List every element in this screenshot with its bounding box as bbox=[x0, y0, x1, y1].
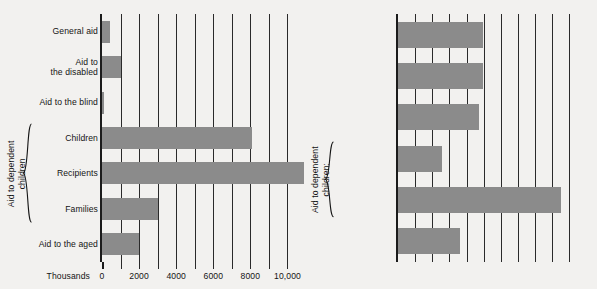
bar bbox=[102, 198, 158, 220]
category-label: General aid bbox=[8, 26, 98, 37]
x-tick-mark bbox=[102, 262, 104, 269]
x-tick-mark bbox=[213, 262, 214, 269]
bar bbox=[398, 22, 483, 48]
bar bbox=[102, 92, 104, 114]
category-label-line: Aid to bbox=[8, 57, 98, 68]
bar-row bbox=[398, 146, 578, 172]
x-axis-ticks-left: 0200040006000800010,000 bbox=[100, 262, 306, 286]
bar-series-right bbox=[398, 14, 578, 262]
group-bracket-label-line: Aid to dependent bbox=[310, 141, 321, 218]
bar-series-left bbox=[102, 14, 306, 262]
x-axis-title-left: Thousands bbox=[20, 271, 90, 281]
category-label-line: General aid bbox=[8, 26, 98, 37]
x-tick-mark bbox=[232, 262, 233, 269]
plot-area-right bbox=[396, 14, 578, 262]
category-label-line: Aid to the blind bbox=[8, 97, 98, 108]
bar-row bbox=[398, 187, 578, 213]
group-bracket-label-line: children: bbox=[321, 141, 332, 218]
x-tick-mark bbox=[195, 262, 196, 269]
plot-area-left bbox=[100, 14, 306, 262]
x-tick-label: 10,000 bbox=[274, 271, 301, 281]
bar-row bbox=[102, 56, 306, 78]
bar bbox=[398, 187, 561, 213]
x-tick-label: 2000 bbox=[129, 271, 149, 281]
x-tick-mark bbox=[121, 262, 122, 269]
bar bbox=[398, 228, 460, 254]
bar-row bbox=[102, 233, 306, 255]
bar bbox=[102, 21, 110, 43]
group-bracket-label: Aid to dependentchildren bbox=[6, 123, 27, 223]
x-tick-mark bbox=[250, 262, 251, 269]
chart-panel-dollars: GeneralassistanceAid tothe disabledAid t… bbox=[310, 0, 597, 289]
bar bbox=[398, 104, 479, 130]
group-bracket-label-line: Aid to dependent bbox=[6, 123, 17, 223]
x-tick-mark bbox=[287, 262, 288, 269]
x-tick-mark bbox=[158, 262, 159, 269]
group-bracket-label: Aid to dependentchildren: bbox=[310, 141, 331, 218]
x-tick-label: 8000 bbox=[241, 271, 261, 281]
category-label-line: the disabled bbox=[8, 67, 98, 78]
x-tick-mark bbox=[139, 262, 140, 269]
bar-row bbox=[102, 92, 306, 114]
bar bbox=[102, 162, 304, 184]
chart-page: General aidAid tothe disabledAid to the … bbox=[0, 0, 597, 289]
bar-row bbox=[398, 22, 578, 48]
bar-row bbox=[102, 162, 306, 184]
category-label: Aid tothe disabled bbox=[8, 57, 98, 78]
x-tick-label: 6000 bbox=[204, 271, 224, 281]
bar bbox=[398, 63, 483, 89]
group-bracket-label-line: children bbox=[17, 123, 28, 223]
bar bbox=[102, 56, 121, 78]
chart-panel-thousands: General aidAid tothe disabledAid to the … bbox=[0, 0, 310, 289]
bar bbox=[102, 233, 139, 255]
bar-row bbox=[102, 127, 306, 149]
x-axis-title-line: Thousands bbox=[20, 271, 90, 281]
bar bbox=[102, 127, 252, 149]
bar bbox=[398, 146, 442, 172]
x-tick-label: 0 bbox=[100, 271, 105, 281]
bar-row bbox=[398, 104, 578, 130]
bar-row bbox=[102, 21, 306, 43]
bar-row bbox=[398, 228, 578, 254]
category-label: Aid to the blind bbox=[8, 97, 98, 108]
category-label-line: Aid to the aged bbox=[8, 239, 98, 250]
x-tick-mark bbox=[269, 262, 270, 269]
bar-row bbox=[398, 63, 578, 89]
x-tick-label: 4000 bbox=[166, 271, 186, 281]
bar-row bbox=[102, 198, 306, 220]
category-label: Aid to the aged bbox=[8, 239, 98, 250]
x-tick-mark bbox=[176, 262, 177, 269]
